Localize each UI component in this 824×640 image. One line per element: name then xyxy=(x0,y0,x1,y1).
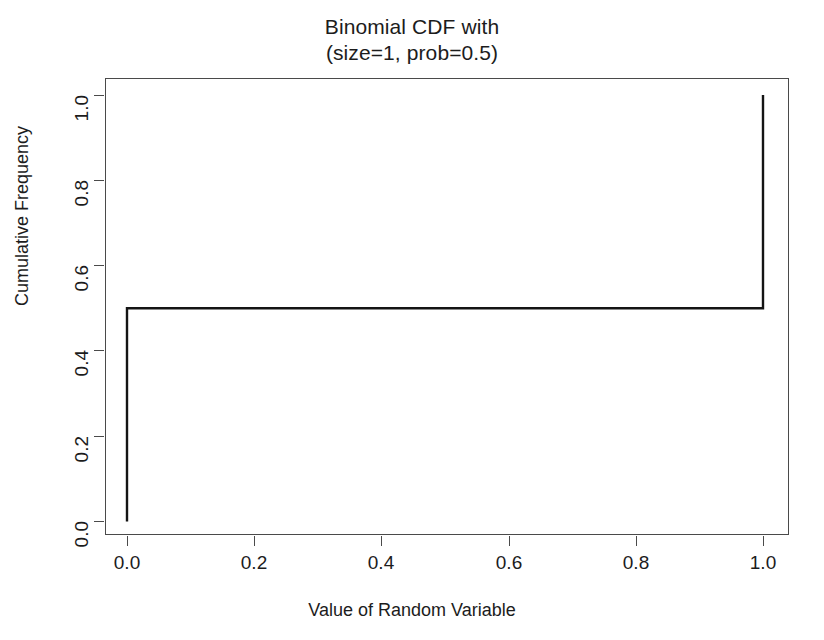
y-tick-label-0.6: 0.6 xyxy=(71,265,93,325)
y-tick-mark-0.8 xyxy=(94,180,104,181)
x-tick-mark-1.0 xyxy=(763,536,764,546)
y-tick-label-0.8: 0.8 xyxy=(71,180,93,240)
chart-figure: Binomial CDF with (size=1, prob=0.5) 1.0… xyxy=(0,0,824,640)
x-tick-mark-0.4 xyxy=(381,536,382,546)
y-axis-title: Cumulative Frequency xyxy=(12,126,33,306)
x-tick-mark-0.2 xyxy=(254,536,255,546)
x-tick-mark-0.0 xyxy=(127,536,128,546)
y-tick-label-0.4: 0.4 xyxy=(71,350,93,410)
y-tick-label-1.0: 1.0 xyxy=(71,95,93,155)
y-tick-mark-1.0 xyxy=(94,95,104,96)
x-tick-label-1.0: 1.0 xyxy=(728,551,798,575)
plot-area xyxy=(105,78,789,535)
chart-title-line-1: Binomial CDF with xyxy=(0,14,824,40)
x-tick-label-0.4: 0.4 xyxy=(346,551,416,575)
y-tick-mark-0.2 xyxy=(94,436,104,437)
y-tick-mark-0.4 xyxy=(94,350,104,351)
x-tick-label-0.2: 0.2 xyxy=(219,551,289,575)
x-tick-label-0.8: 0.8 xyxy=(601,551,671,575)
x-tick-label-0.0: 0.0 xyxy=(92,551,162,575)
x-tick-label-0.6: 0.6 xyxy=(474,551,544,575)
y-tick-label-0.2: 0.2 xyxy=(71,436,93,496)
x-axis-title: Value of Random Variable xyxy=(0,600,824,621)
y-tick-label-0.0: 0.0 xyxy=(71,521,93,581)
x-tick-mark-0.8 xyxy=(636,536,637,546)
x-tick-mark-0.6 xyxy=(509,536,510,546)
y-tick-mark-0.0 xyxy=(94,521,104,522)
y-tick-mark-0.6 xyxy=(94,265,104,266)
chart-title: Binomial CDF with (size=1, prob=0.5) xyxy=(0,14,824,66)
chart-title-line-2: (size=1, prob=0.5) xyxy=(0,40,824,66)
